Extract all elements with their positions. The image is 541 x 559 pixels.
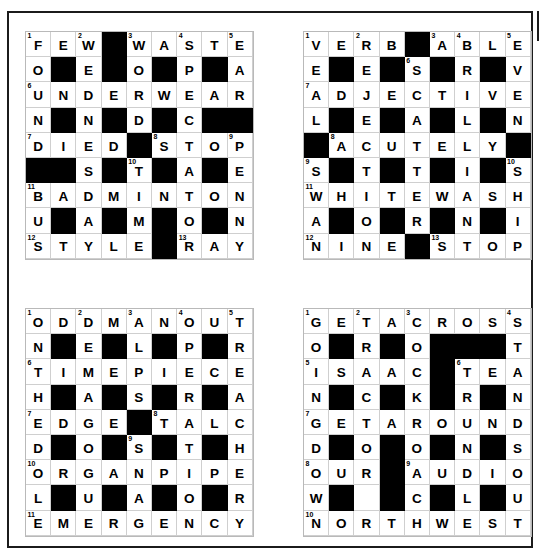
- crossword-cell[interactable]: L: [127, 334, 152, 359]
- crossword-cell[interactable]: A: [228, 57, 253, 82]
- crossword-cell[interactable]: H: [26, 385, 51, 410]
- crossword-cell[interactable]: E: [354, 57, 379, 82]
- crossword-cell[interactable]: C: [202, 359, 227, 384]
- crossword-cell[interactable]: I: [329, 234, 354, 259]
- crossword-cell[interactable]: N: [506, 108, 531, 133]
- crossword-cell[interactable]: O: [76, 435, 101, 460]
- crossword-cell[interactable]: R: [228, 82, 253, 107]
- crossword-cell[interactable]: H: [506, 183, 531, 208]
- crossword-cell[interactable]: C: [354, 133, 379, 158]
- crossword-cell[interactable]: S: [480, 309, 505, 334]
- crossword-cell[interactable]: N: [480, 410, 505, 435]
- crossword-cell[interactable]: 5I: [304, 359, 329, 384]
- crossword-cell[interactable]: 12S: [26, 234, 51, 259]
- crossword-grid-3[interactable]: 1OD2DM3AN4OU5TNELPR6TIMEPIECEHASRA7EDGE8…: [25, 308, 254, 537]
- crossword-cell[interactable]: L: [480, 32, 505, 57]
- crossword-cell[interactable]: O: [177, 208, 202, 233]
- crossword-cell[interactable]: 6S: [405, 57, 430, 82]
- crossword-cell[interactable]: T: [354, 158, 379, 183]
- crossword-cell[interactable]: M: [127, 208, 152, 233]
- crossword-cell[interactable]: O: [430, 410, 455, 435]
- crossword-cell[interactable]: 1O: [26, 309, 51, 334]
- crossword-cell[interactable]: 3A: [127, 309, 152, 334]
- crossword-cell[interactable]: H: [228, 435, 253, 460]
- crossword-cell[interactable]: O: [405, 435, 430, 460]
- crossword-cell[interactable]: N: [152, 309, 177, 334]
- crossword-cell[interactable]: D: [455, 460, 480, 485]
- crossword-cell[interactable]: U: [455, 410, 480, 435]
- crossword-cell[interactable]: 9S: [127, 435, 152, 460]
- crossword-cell[interactable]: E: [177, 359, 202, 384]
- crossword-cell[interactable]: A: [152, 32, 177, 57]
- crossword-cell[interactable]: E: [329, 410, 354, 435]
- crossword-cell[interactable]: A: [102, 460, 127, 485]
- crossword-cell[interactable]: S: [480, 511, 505, 536]
- crossword-cell[interactable]: D: [102, 133, 127, 158]
- crossword-cell[interactable]: 9S: [304, 158, 329, 183]
- crossword-cell[interactable]: 1F: [26, 32, 51, 57]
- crossword-cell[interactable]: A: [405, 108, 430, 133]
- crossword-cell[interactable]: 11B: [26, 183, 51, 208]
- crossword-cell[interactable]: 4B: [455, 32, 480, 57]
- crossword-cell[interactable]: L: [304, 108, 329, 133]
- crossword-cell[interactable]: N: [455, 435, 480, 460]
- crossword-grid-4[interactable]: 1GE2TA3CROS4SOROT5ISAAC6TEANCKRN7GETAROU…: [303, 308, 532, 537]
- crossword-cell[interactable]: E: [480, 359, 505, 384]
- crossword-cell[interactable]: O: [405, 334, 430, 359]
- crossword-cell[interactable]: A: [51, 183, 76, 208]
- crossword-cell[interactable]: 4S: [177, 32, 202, 57]
- crossword-cell[interactable]: 11E: [26, 511, 51, 536]
- crossword-cell[interactable]: W: [304, 485, 329, 510]
- crossword-cell[interactable]: R: [405, 208, 430, 233]
- crossword-cell[interactable]: T: [177, 183, 202, 208]
- crossword-cell[interactable]: T: [380, 183, 405, 208]
- crossword-cell[interactable]: N: [152, 183, 177, 208]
- crossword-cell[interactable]: E: [177, 82, 202, 107]
- crossword-cell[interactable]: C: [405, 82, 430, 107]
- crossword-cell[interactable]: N: [304, 385, 329, 410]
- crossword-cell[interactable]: E: [506, 82, 531, 107]
- crossword-cell[interactable]: J: [354, 82, 379, 107]
- crossword-cell[interactable]: N: [51, 82, 76, 107]
- crossword-cell[interactable]: T: [506, 334, 531, 359]
- crossword-cell[interactable]: E: [228, 460, 253, 485]
- crossword-cell[interactable]: T: [455, 234, 480, 259]
- crossword-cell[interactable]: E: [304, 57, 329, 82]
- crossword-cell[interactable]: U: [329, 460, 354, 485]
- crossword-cell[interactable]: 10N: [304, 511, 329, 536]
- crossword-cell[interactable]: A: [76, 208, 101, 233]
- crossword-cell[interactable]: I: [455, 82, 480, 107]
- crossword-cell[interactable]: R: [455, 57, 480, 82]
- crossword-cell[interactable]: A: [506, 359, 531, 384]
- crossword-cell[interactable]: D: [329, 82, 354, 107]
- crossword-cell[interactable]: 3C: [405, 309, 430, 334]
- crossword-cell[interactable]: D: [127, 108, 152, 133]
- crossword-cell[interactable]: P: [152, 460, 177, 485]
- crossword-cell[interactable]: H: [405, 511, 430, 536]
- crossword-cell[interactable]: G: [76, 460, 101, 485]
- crossword-cell[interactable]: R: [430, 309, 455, 334]
- crossword-cell[interactable]: 1V: [304, 32, 329, 57]
- crossword-cell[interactable]: 13S: [430, 234, 455, 259]
- crossword-cell[interactable]: T: [177, 133, 202, 158]
- crossword-cell[interactable]: R: [354, 334, 379, 359]
- crossword-cell[interactable]: P: [506, 234, 531, 259]
- crossword-cell[interactable]: 9P: [228, 133, 253, 158]
- crossword-cell[interactable]: 8T: [152, 410, 177, 435]
- crossword-cell[interactable]: R: [354, 511, 379, 536]
- crossword-cell[interactable]: A: [354, 359, 379, 384]
- crossword-cell[interactable]: 10S: [506, 158, 531, 183]
- crossword-cell[interactable]: 10T: [127, 158, 152, 183]
- crossword-cell[interactable]: W: [430, 511, 455, 536]
- crossword-cell[interactable]: 6U: [26, 82, 51, 107]
- crossword-cell[interactable]: U: [26, 208, 51, 233]
- crossword-cell[interactable]: R: [228, 334, 253, 359]
- crossword-cell[interactable]: C: [177, 108, 202, 133]
- crossword-cell[interactable]: G: [76, 410, 101, 435]
- crossword-cell[interactable]: 9A: [405, 460, 430, 485]
- crossword-cell[interactable]: [354, 485, 379, 510]
- crossword-cell[interactable]: P: [177, 334, 202, 359]
- crossword-cell[interactable]: O: [304, 334, 329, 359]
- crossword-cell[interactable]: 8O: [304, 460, 329, 485]
- crossword-cell[interactable]: S: [480, 183, 505, 208]
